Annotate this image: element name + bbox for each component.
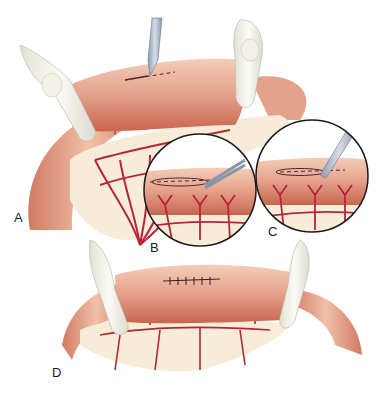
panel-label-c: C (268, 224, 277, 239)
surgical-illustration (0, 0, 384, 394)
panel-label-a: A (14, 210, 23, 225)
panel-d-bowel (62, 240, 362, 371)
panel-label-b: B (150, 240, 159, 255)
panel-label-d: D (52, 365, 61, 380)
